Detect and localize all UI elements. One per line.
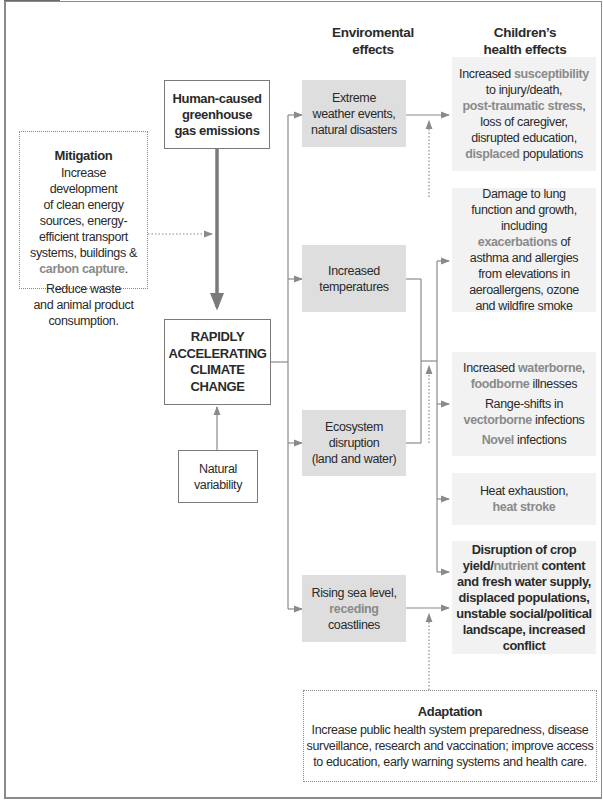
health-text: to injury/death,	[459, 82, 589, 98]
health-text: content	[538, 558, 585, 573]
health-highlight: displaced	[465, 147, 520, 161]
health-crop-disruption: Disruption of crop yield/nutrient conten…	[452, 541, 596, 654]
health-text: Range-shifts in	[463, 396, 585, 412]
health-text: unstable social/political	[456, 606, 592, 622]
env-rising-sea-level: Rising sea level, receding coastlines	[302, 575, 406, 642]
health-highlight: exacerbations	[478, 235, 558, 249]
env-line: Rising sea level,	[311, 585, 396, 601]
health-highlight: nutrient	[493, 558, 538, 573]
health-text: illnesses	[529, 377, 577, 391]
env-line: disruption	[312, 435, 397, 451]
header-environmental-effects: Enviromental effects	[318, 24, 428, 58]
env-line: Extreme	[311, 90, 397, 106]
health-highlight: foodborne	[471, 377, 530, 391]
human-line: gas emissions	[173, 123, 262, 139]
health-highlight: vectorborne	[464, 413, 532, 427]
adaptation-title: Adaptation	[304, 703, 596, 720]
health-highlight: susceptibility	[514, 67, 589, 81]
health-infections: Increased waterborne, foodborne illnesse…	[452, 352, 596, 456]
natural-line: Natural	[194, 461, 242, 477]
env-extreme-weather: Extreme weather events, natural disaster…	[302, 80, 406, 147]
mitigation-suffix: .	[125, 262, 128, 276]
env-line: weather events,	[311, 106, 397, 122]
health-heat-illness: Heat exhaustion, heat stroke	[452, 473, 596, 525]
health-text: Heat exhaustion,	[480, 483, 568, 499]
health-text: infections	[514, 433, 566, 447]
header-env-line: effects	[318, 41, 428, 58]
mitigation-line: Reduce waste	[20, 281, 147, 297]
health-text: Increased	[459, 67, 514, 81]
health-text: Disruption of crop	[456, 542, 592, 558]
natural-variability-box: Natural variability	[178, 450, 258, 503]
mitigation-line: sources, energy-	[20, 213, 147, 229]
mitigation-line: consumption.	[20, 313, 147, 329]
mitigation-line: of clean energy	[20, 197, 147, 213]
health-text: Increased	[463, 361, 518, 375]
health-text: from elevations in	[469, 266, 579, 282]
mitigation-title: Mitigation	[20, 148, 147, 164]
health-text: conflict	[456, 638, 592, 654]
climate-line: ACCELERATING	[168, 346, 266, 363]
human-line: greenhouse	[173, 107, 262, 123]
health-text: and fresh water supply,	[456, 574, 592, 590]
adaptation-line: to education, early warning systems and …	[304, 754, 596, 770]
env-line: (land and water)	[312, 451, 397, 467]
env-line: natural disasters	[311, 122, 397, 138]
health-text: loss of caregiver,	[459, 114, 589, 130]
header-childrens-health-effects: Children’s health effects	[455, 24, 595, 58]
health-text: populations	[520, 147, 583, 161]
health-highlight: post-traumatic stress	[463, 99, 583, 113]
env-line: Increased	[319, 263, 388, 279]
mitigation-line: Increase	[20, 165, 147, 181]
env-increased-temperatures: Increased temperatures	[302, 245, 406, 312]
climate-line: CHANGE	[168, 379, 266, 396]
climate-line: CLIMATE	[168, 362, 266, 379]
health-text: including	[469, 218, 579, 234]
adaptation-box: Adaptation Increase public health system…	[303, 690, 597, 782]
header-health-line: Children’s	[455, 24, 595, 41]
human-line: Human-caused	[173, 91, 262, 107]
adaptation-line: surveillance, research and vaccination; …	[304, 738, 596, 754]
health-text: ,	[582, 99, 585, 113]
mitigation-box: Mitigation Increase development of clean…	[19, 131, 148, 289]
health-highlight: Novel	[482, 433, 514, 447]
health-text: displaced populations,	[456, 590, 592, 606]
env-line: temperatures	[319, 279, 388, 295]
mitigation-highlight: carbon capture	[39, 262, 124, 276]
health-text: of	[557, 235, 570, 249]
health-text: asthma and allergies	[469, 250, 579, 266]
health-text: yield/	[463, 558, 494, 573]
health-text: landscape, increased	[456, 622, 592, 638]
health-lung-function: Damage to lung function and growth, incl…	[452, 188, 596, 312]
health-text: and wildfire smoke	[469, 298, 579, 314]
health-injury-trauma: Increased susceptibility to injury/death…	[452, 57, 596, 171]
human-caused-emissions-box: Human-caused greenhouse gas emissions	[164, 80, 270, 149]
mitigation-line: efficient transport	[20, 229, 147, 245]
climate-line: RAPIDLY	[168, 329, 266, 346]
health-text: Damage to lung	[469, 186, 579, 202]
header-health-line: health effects	[455, 41, 595, 58]
env-ecosystem-disruption: Ecosystem disruption (land and water)	[302, 410, 406, 476]
health-text: function and growth,	[469, 202, 579, 218]
env-line: coastlines	[311, 617, 396, 633]
env-line: Ecosystem	[312, 419, 397, 435]
health-highlight: heat stroke	[480, 499, 568, 515]
env-highlight: receding	[311, 601, 396, 617]
mitigation-line: development	[20, 181, 147, 197]
health-text: aeroallergens, ozone	[469, 282, 579, 298]
health-highlight: waterborne	[518, 361, 582, 375]
health-text: disrupted education,	[459, 130, 589, 146]
mitigation-line: systems, buildings &	[20, 245, 147, 261]
mitigation-line: and animal product	[20, 297, 147, 313]
health-text: ,	[582, 361, 585, 375]
natural-line: variability	[194, 477, 242, 493]
adaptation-line: Increase public health system preparedne…	[304, 722, 596, 738]
health-text: infections	[532, 413, 584, 427]
header-env-line: Enviromental	[318, 24, 428, 41]
climate-change-box: RAPIDLY ACCELERATING CLIMATE CHANGE	[164, 319, 271, 405]
